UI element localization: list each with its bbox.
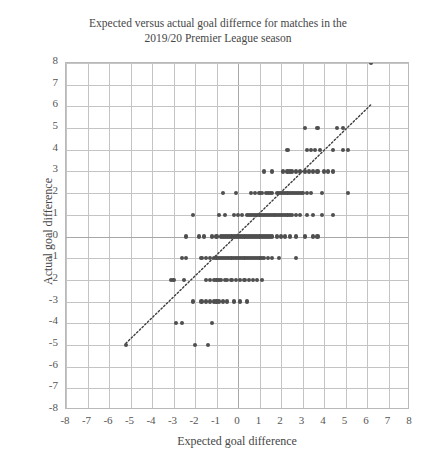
gridline-vertical: [152, 63, 153, 408]
x-tick-label: -4: [139, 414, 163, 426]
data-point: [270, 256, 274, 260]
data-point: [294, 234, 298, 238]
data-point: [300, 191, 304, 195]
scatter-chart-figure: Expected versus actual goal differnce fo…: [0, 0, 433, 457]
x-tick-label: 4: [311, 414, 335, 426]
x-tick-label: 3: [290, 414, 314, 426]
data-point: [318, 148, 322, 152]
x-tick-label: 5: [333, 414, 357, 426]
data-point: [260, 278, 264, 282]
gridline-horizontal: [66, 106, 408, 107]
x-tick-label: 2: [268, 414, 292, 426]
x-tick-label: -8: [53, 414, 77, 426]
gridline-horizontal: [66, 323, 408, 324]
data-point: [214, 234, 218, 238]
data-point: [335, 126, 339, 130]
gridline-vertical: [88, 63, 89, 408]
x-tick-label: -5: [118, 414, 142, 426]
data-point: [180, 321, 184, 325]
data-point: [184, 234, 188, 238]
y-tick-label: 7: [36, 76, 58, 88]
data-point: [171, 278, 175, 282]
data-point: [182, 278, 186, 282]
data-point: [303, 234, 307, 238]
gridline-horizontal: [66, 63, 408, 64]
x-tick-label: 1: [247, 414, 271, 426]
gridline-horizontal: [66, 128, 408, 129]
y-axis-title: Actual goal difference: [41, 112, 56, 352]
data-point: [262, 169, 266, 173]
gridline-horizontal: [66, 85, 408, 86]
data-point: [309, 191, 313, 195]
gridline-vertical: [109, 63, 110, 408]
gridline-vertical: [174, 63, 175, 408]
data-point: [270, 169, 274, 173]
data-point: [242, 278, 246, 282]
plot-area: [65, 62, 409, 409]
data-point: [346, 148, 350, 152]
data-point: [193, 343, 197, 347]
data-point: [197, 234, 201, 238]
data-point: [331, 169, 335, 173]
x-tick-label: 0: [225, 414, 249, 426]
data-point: [346, 191, 350, 195]
gridline-vertical: [324, 63, 325, 408]
y-tick-label: 8: [36, 54, 58, 66]
x-axis-title: Expected goal difference: [65, 434, 409, 449]
x-tick-label: -6: [96, 414, 120, 426]
gridline-vertical: [131, 63, 132, 408]
data-point: [225, 299, 229, 303]
data-point: [303, 126, 307, 130]
data-point: [199, 299, 203, 303]
data-point: [206, 343, 210, 347]
data-point: [313, 148, 317, 152]
gridline-vertical: [195, 63, 196, 408]
x-tick-label: -2: [182, 414, 206, 426]
data-point: [240, 213, 244, 217]
x-tick-label: 8: [397, 414, 421, 426]
gridline-horizontal: [66, 345, 408, 346]
data-point: [232, 299, 236, 303]
gridline-vertical: [389, 63, 390, 408]
x-tick-label: -3: [161, 414, 185, 426]
x-tick-label: 6: [354, 414, 378, 426]
y-tick-label: -6: [36, 358, 58, 370]
data-point: [369, 62, 373, 65]
x-tick-label: -1: [204, 414, 228, 426]
data-point: [124, 343, 128, 347]
data-point: [270, 234, 274, 238]
data-point: [221, 191, 225, 195]
data-point: [320, 213, 324, 217]
data-point: [311, 213, 315, 217]
data-point: [326, 169, 330, 173]
gridline-vertical: [367, 63, 368, 408]
chart-title: Expected versus actual goal differnce fo…: [48, 16, 388, 46]
gridline-horizontal: [66, 302, 408, 303]
data-point: [305, 213, 309, 217]
gridline-horizontal: [66, 171, 408, 172]
gridline-vertical: [66, 63, 67, 408]
x-tick-label: 7: [376, 414, 400, 426]
data-point: [315, 234, 319, 238]
data-point: [202, 234, 206, 238]
data-point: [331, 213, 335, 217]
data-point: [191, 299, 195, 303]
data-point: [331, 148, 335, 152]
data-point: [191, 213, 195, 217]
y-tick-label: -8: [36, 401, 58, 413]
data-point: [288, 234, 292, 238]
data-point: [270, 191, 274, 195]
data-point: [238, 299, 242, 303]
data-point: [210, 321, 214, 325]
data-point: [283, 234, 287, 238]
data-point: [315, 126, 319, 130]
gridline-horizontal: [66, 388, 408, 389]
y-tick-label: -7: [36, 379, 58, 391]
data-point: [217, 213, 221, 217]
data-point: [223, 213, 227, 217]
data-point: [184, 256, 188, 260]
data-point: [245, 299, 249, 303]
data-point: [294, 256, 298, 260]
gridline-horizontal: [66, 150, 408, 151]
data-point: [315, 169, 319, 173]
